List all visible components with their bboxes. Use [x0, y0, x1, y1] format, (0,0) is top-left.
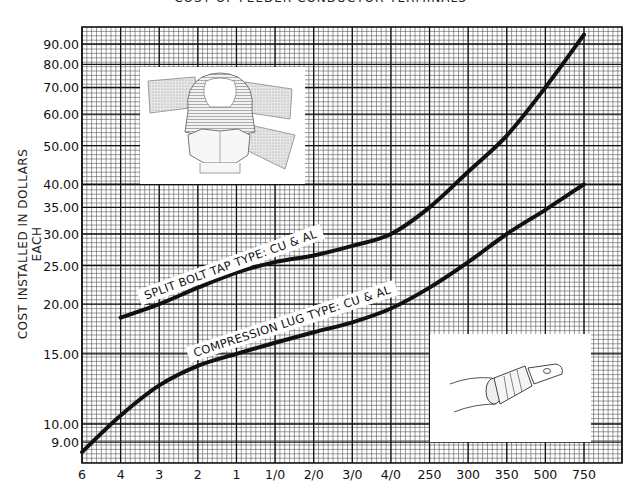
split-bolt-illustration	[140, 67, 305, 184]
y-tick-label: 50.00	[43, 138, 79, 153]
y-tick-label: 15.00	[43, 346, 79, 361]
x-tick-label: 3/0	[342, 467, 362, 482]
x-tick-label: 3	[155, 467, 163, 482]
x-tick-label: 6	[78, 467, 86, 482]
x-tick-label: 2	[194, 467, 202, 482]
y-tick-label: 10.00	[43, 417, 79, 432]
y-tick-label: 35.00	[43, 200, 79, 215]
x-tick-label: 300	[456, 467, 480, 482]
y-tick-label: 9.00	[51, 435, 79, 450]
y-tick-label: 60.00	[43, 107, 79, 122]
x-tick-label: 350	[495, 467, 519, 482]
x-tick-label: 1/0	[265, 467, 285, 482]
split-bolt-tap-icon	[140, 67, 305, 184]
y-tick-label: 40.00	[43, 177, 79, 192]
y-tick-label: 20.00	[43, 297, 79, 312]
y-tick-label: 70.00	[43, 80, 79, 95]
x-tick-label: 500	[533, 467, 557, 482]
y-tick-label: 25.00	[43, 258, 79, 273]
y-tick-label: 90.00	[43, 37, 79, 52]
y-tick-label: 80.00	[43, 57, 79, 72]
compression-lug-icon	[430, 334, 591, 442]
x-tick-label: 4	[117, 467, 125, 482]
x-tick-label: 2/0	[304, 467, 324, 482]
x-tick-label: 250	[418, 467, 442, 482]
y-tick-label: 30.00	[43, 227, 79, 242]
compression-lug-illustration	[430, 334, 591, 442]
x-tick-label: 1	[232, 467, 240, 482]
x-tick-label: 750	[572, 467, 596, 482]
x-tick-label: 4/0	[381, 467, 401, 482]
